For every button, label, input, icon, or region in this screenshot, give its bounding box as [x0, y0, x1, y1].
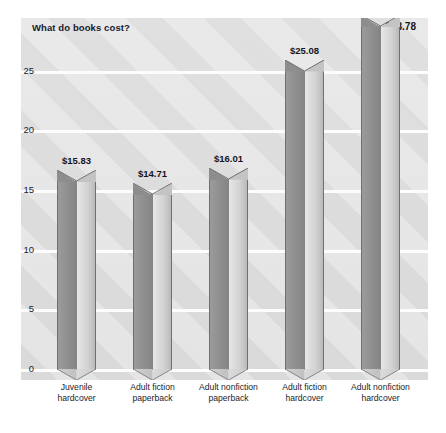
bar-cap-outline: [57, 170, 96, 182]
y-axis-tick-label: 5: [0, 303, 34, 314]
bar-face-left: [285, 71, 305, 370]
bar-body: [57, 181, 96, 370]
bar: [133, 194, 172, 370]
bar-value-label-1: $15.83: [42, 155, 112, 166]
x-axis-label-line1: Adult nonfiction: [199, 382, 258, 392]
bar-foot-outline: [361, 369, 400, 380]
bar-cap-outline: [209, 168, 248, 180]
bar-top-cap: [361, 18, 400, 27]
bar-bottom-point: [209, 369, 248, 380]
x-axis-label-line1: Adult fiction: [130, 382, 174, 392]
bar-cap-outline: [361, 18, 400, 27]
bar-bottom-point: [57, 369, 96, 380]
bar-foot-outline: [57, 369, 96, 380]
chart-title: What do books cost?: [32, 22, 130, 33]
bar-value-label-4: $25.08: [270, 45, 340, 56]
bar: [361, 26, 400, 370]
bar-face-left: [209, 179, 229, 370]
bar-cap-outline: [285, 60, 324, 72]
bar-value-label-3: $16.01: [194, 153, 264, 164]
plot-panel: What do books cost? $28.78 $15.83$14.71$…: [21, 18, 428, 380]
bar: [285, 71, 324, 370]
y-axis-tick-label: 20: [0, 124, 34, 135]
bar-value-label-2: $14.71: [118, 168, 188, 179]
x-axis-labels: JuvenilehardcoverAdult fictionpaperbackA…: [21, 382, 428, 412]
bar-face-right: [153, 194, 173, 370]
x-axis-category-label: Adult nonfictionhardcover: [336, 382, 426, 404]
bar-body: [285, 71, 324, 370]
bar-body: [133, 194, 172, 370]
x-axis-label-line1: Juvenile: [61, 382, 93, 392]
y-axis-tick-label: 25: [0, 65, 34, 76]
bar: [57, 181, 96, 370]
bar-face-left: [57, 181, 77, 370]
bar-cap-outline: [133, 183, 172, 195]
bar: [209, 179, 248, 370]
bar-foot-outline: [285, 369, 324, 380]
bar-top-cap: [133, 183, 172, 195]
bar-face-left: [133, 194, 153, 370]
x-axis-label-line1: Adult fiction: [282, 382, 326, 392]
bar-face-right: [381, 26, 401, 370]
bar-face-right: [305, 71, 325, 370]
y-axis-tick-label: 10: [0, 244, 34, 255]
bar-bottom-point: [133, 369, 172, 380]
bar-body: [361, 26, 400, 370]
bar-top-cap: [209, 168, 248, 180]
y-axis-tick-label: 0: [0, 363, 34, 374]
bar-face-right: [229, 179, 249, 370]
x-axis-label-line1: Adult nonfiction: [351, 382, 410, 392]
bar-body: [209, 179, 248, 370]
bar-bottom-point: [361, 369, 400, 380]
bar-foot-outline: [133, 369, 172, 380]
bar-top-cap: [285, 60, 324, 72]
bar-face-right: [77, 181, 97, 370]
x-axis-label-line2: hardcover: [336, 393, 426, 404]
chart-container: What do books cost? $28.78 $15.83$14.71$…: [0, 0, 446, 433]
bar-top-cap: [57, 170, 96, 182]
y-axis-tick-label: 15: [0, 184, 34, 195]
bar-face-left: [361, 26, 381, 370]
bar-foot-outline: [209, 369, 248, 380]
bar-bottom-point: [285, 369, 324, 380]
